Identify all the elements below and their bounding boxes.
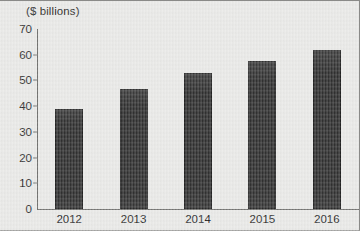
- x-tick-label: 2012: [56, 213, 82, 225]
- y-tick-label: 50: [19, 74, 32, 86]
- y-tick-label: 20: [19, 152, 32, 164]
- x-tick-label: 2016: [314, 213, 340, 225]
- x-axis-line: [37, 209, 359, 210]
- bar: [248, 61, 276, 209]
- x-tick-label: 2013: [121, 213, 147, 225]
- y-tick-label: 60: [19, 49, 32, 61]
- y-tick-label: 40: [19, 100, 32, 112]
- bottom-rule: [0, 230, 360, 231]
- bar: [55, 109, 83, 209]
- x-tick-label: 2015: [250, 213, 276, 225]
- x-tick-label: 2014: [185, 213, 211, 225]
- bar: [120, 89, 148, 209]
- plot-area: 010203040506070: [37, 29, 359, 209]
- y-tick-label: 30: [19, 126, 32, 138]
- y-tick-label: 70: [19, 23, 32, 35]
- y-tick-label: 0: [26, 203, 32, 215]
- y-tick-label: 10: [19, 177, 32, 189]
- bar-chart: ($ billions) 010203040506070 20122013201…: [0, 0, 360, 231]
- bar: [184, 73, 212, 209]
- bar: [313, 50, 341, 209]
- y-axis-unit-label: ($ billions): [26, 5, 80, 17]
- y-axis-line: [37, 29, 38, 210]
